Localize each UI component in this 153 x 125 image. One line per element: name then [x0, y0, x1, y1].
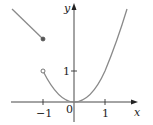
curves [12, 9, 127, 102]
y-tick-label-1: 1 [63, 65, 70, 78]
x-axis-arrow-icon [131, 100, 138, 105]
left-line-segment [12, 9, 43, 39]
parabola-curve [43, 9, 127, 102]
piecewise-graph: y x −1 0 1 1 [0, 0, 153, 125]
y-axis-arrow-icon [72, 3, 77, 10]
closed-endpoint-dot [41, 37, 45, 41]
open-endpoint-circle [41, 69, 45, 73]
axes [11, 3, 138, 122]
x-tick-label-1: 1 [102, 107, 109, 120]
y-axis-label: y [63, 2, 71, 15]
x-tick-label-neg1: −1 [36, 107, 52, 120]
x-axis-label: x [134, 106, 141, 119]
origin-label: 0 [66, 103, 73, 116]
